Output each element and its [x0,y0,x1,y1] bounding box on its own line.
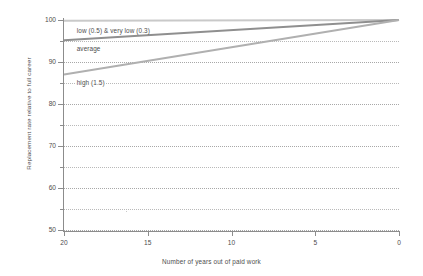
y-tick-label: 100 [14,16,56,23]
gridline [64,230,399,231]
stray-mark [126,211,127,212]
y-tick-label: 80 [14,100,56,107]
chart-figure: Replacement rate relative to full career… [0,0,423,276]
x-tick-label: 10 [217,239,247,246]
series-label: low (0.5) & very low (0.3) [76,27,151,34]
series-label: average [76,45,102,52]
x-tick-label: 20 [49,239,79,246]
plot-area [64,20,399,230]
y-tick-label: 90 [14,58,56,65]
x-tick [315,231,316,236]
y-tick-label: 50 [14,226,56,233]
x-tick-label: 0 [384,239,414,246]
series-lines [64,20,399,230]
x-tick-label: 5 [300,239,330,246]
y-tick-label: 70 [14,142,56,149]
x-axis-title: Number of years out of paid work [0,258,423,265]
x-tick [232,231,233,236]
series-line [64,20,399,21]
y-tick-label: 60 [14,184,56,191]
x-tick [64,231,65,236]
x-tick [148,231,149,236]
x-tick [399,231,400,236]
x-tick-label: 15 [133,239,163,246]
series-label: high (1.5) [76,79,106,86]
